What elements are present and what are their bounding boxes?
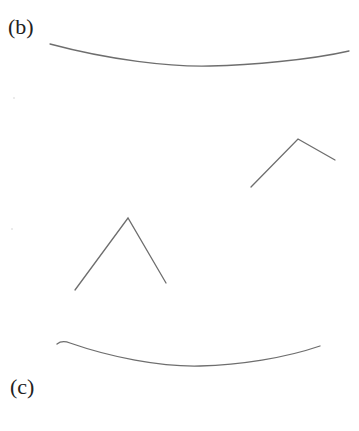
panel-label-c: (c) <box>10 376 34 398</box>
figure-canvas: (b) (c) <box>0 0 359 431</box>
top-arc-curve <box>50 44 349 66</box>
upper-right-chevron <box>251 139 335 187</box>
scan-speck <box>13 97 15 99</box>
line-drawing <box>0 0 359 431</box>
bottom-arc-curve <box>57 342 320 366</box>
lower-left-chevron <box>75 218 166 290</box>
scan-speck <box>11 228 13 230</box>
